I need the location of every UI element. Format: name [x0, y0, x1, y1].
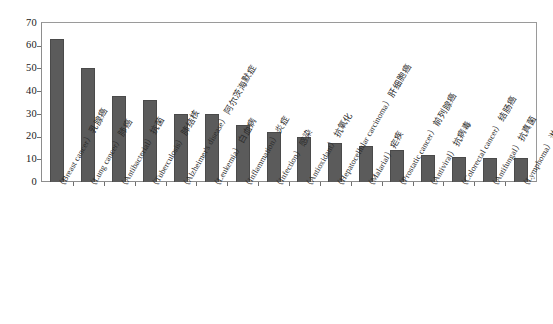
y-axis-tick-mark: [37, 159, 41, 160]
bar-chart: 010203040506070 （Breast cancer）乳腺癌（Lung …: [0, 0, 553, 324]
x-axis-labels: （Breast cancer）乳腺癌（Lung cancer）肺癌（Antiba…: [42, 186, 536, 324]
bar[interactable]: [50, 39, 64, 182]
y-axis-tick-mark: [37, 91, 41, 92]
y-axis-tick-label: 70: [26, 18, 41, 29]
y-axis-tick-mark: [37, 114, 41, 115]
y-axis-tick-mark: [37, 46, 41, 47]
category-label-zh: 淋巴瘤: [548, 113, 553, 142]
y-axis-tick-label: 0: [32, 177, 41, 188]
y-axis-tick-mark: [37, 137, 41, 138]
bar-slot: [42, 23, 73, 182]
y-axis: 010203040506070: [0, 22, 41, 182]
y-axis-tick-mark: [37, 68, 41, 69]
